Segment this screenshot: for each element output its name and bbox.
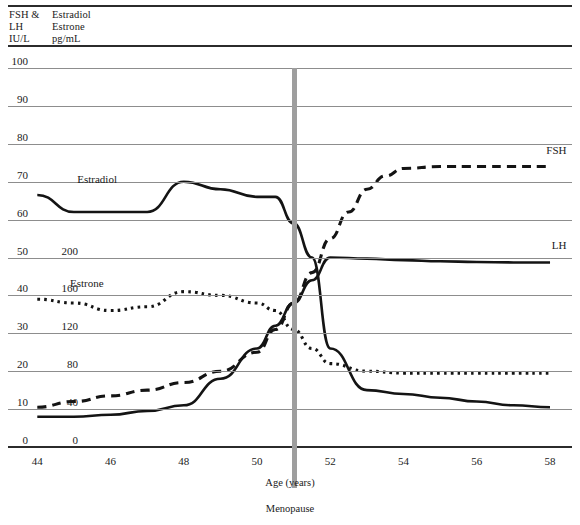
y-tick-label-left: 60 <box>2 207 28 219</box>
header-bottom-rule <box>8 45 572 47</box>
y-tick-label-left: 70 <box>2 169 28 181</box>
series-label-estrone: Estrone <box>70 277 104 289</box>
x-axis-title: Age (years) <box>0 477 580 488</box>
y-tick-label-left: 100 <box>2 55 28 67</box>
series-label-lh: LH <box>552 239 567 251</box>
y-tick-label-left: 0 <box>2 434 28 446</box>
x-tick-label: 54 <box>384 455 424 467</box>
gridline <box>8 220 572 221</box>
x-tick-label: 44 <box>17 455 57 467</box>
gridline <box>8 446 572 448</box>
x-tick-label: 48 <box>164 455 204 467</box>
y-tick-label-right: 80 <box>48 358 78 370</box>
gridline <box>8 106 572 107</box>
y-tick-label-left: 80 <box>2 131 28 143</box>
y-tick-label-left: 50 <box>2 245 28 257</box>
x-tick-label: 52 <box>310 455 350 467</box>
y-tick-label-right: 120 <box>48 320 78 332</box>
x-tick-label: 58 <box>530 455 570 467</box>
y-tick-label-left: 30 <box>2 320 28 332</box>
menopause-caption: Menopause <box>0 503 580 514</box>
right-axis-units: Estradiol Estrone pg/mL <box>52 9 91 44</box>
gridline <box>8 68 572 69</box>
gridline <box>8 144 572 145</box>
y-tick-label-right: 200 <box>48 245 78 257</box>
left-axis-units: FSH & LH IU/L <box>9 9 40 44</box>
gridline <box>8 333 572 334</box>
x-tick-label: 56 <box>457 455 497 467</box>
y-tick-label-left: 40 <box>2 282 28 294</box>
top-rule <box>8 5 572 7</box>
chart-page: FSH & LH IU/L Estradiol Estrone pg/mL Ag… <box>0 0 580 525</box>
series-label-estradiol: Estradiol <box>77 173 117 185</box>
gridline <box>8 409 572 410</box>
gridline <box>8 371 572 372</box>
y-tick-label-left: 10 <box>2 396 28 408</box>
y-tick-label-right: 40 <box>48 396 78 408</box>
y-tick-label-right: 0 <box>48 434 78 446</box>
menopause-marker-line <box>292 68 297 488</box>
gridline <box>8 258 572 259</box>
x-tick-label: 50 <box>237 455 277 467</box>
y-tick-label-left: 90 <box>2 93 28 105</box>
plot-area <box>8 68 572 447</box>
y-tick-label-left: 20 <box>2 358 28 370</box>
series-label-fsh: FSH <box>546 144 566 156</box>
x-tick-label: 46 <box>91 455 131 467</box>
gridline <box>8 295 572 296</box>
